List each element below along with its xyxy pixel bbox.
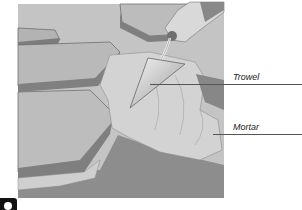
mortar-leader-line [213, 134, 302, 135]
mortar-label: Mortar [233, 122, 259, 132]
trowel-label: Trowel [233, 72, 259, 82]
trowel-leader-line [150, 84, 302, 85]
stone-laying-illustration [0, 0, 302, 210]
step-number-badge [0, 198, 17, 210]
